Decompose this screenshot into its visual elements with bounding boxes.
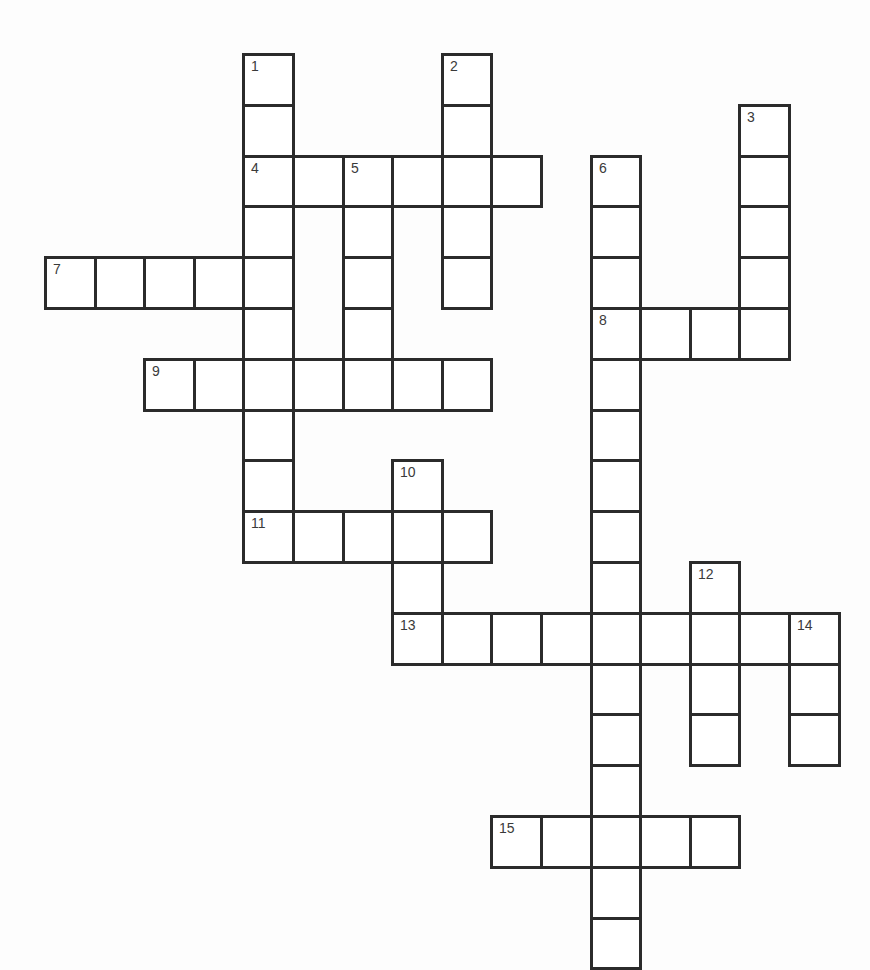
crossword-cell[interactable]: [738, 612, 791, 666]
clue-number: 4: [251, 161, 259, 175]
clue-number: 14: [797, 618, 813, 632]
crossword-cell[interactable]: [292, 155, 345, 208]
clue-number: 3: [747, 110, 755, 124]
crossword-cell[interactable]: [242, 205, 295, 259]
clue-number: 2: [450, 59, 458, 73]
crossword-cell[interactable]: [738, 307, 791, 361]
crossword-cell[interactable]: [639, 612, 692, 666]
crossword-cell[interactable]: 4: [242, 155, 295, 208]
crossword-cell[interactable]: [391, 510, 444, 564]
crossword-cell[interactable]: [738, 205, 791, 259]
clue-number: 13: [400, 618, 416, 632]
crossword-cell[interactable]: [590, 866, 642, 920]
crossword-cell[interactable]: 14: [788, 612, 841, 666]
crossword-cell[interactable]: [342, 510, 394, 564]
crossword-cell[interactable]: [242, 358, 295, 412]
crossword-cell[interactable]: [590, 205, 642, 259]
crossword-cell[interactable]: [292, 358, 345, 412]
crossword-cell[interactable]: [738, 256, 791, 310]
crossword-cell[interactable]: [441, 155, 493, 208]
crossword-cell[interactable]: [292, 510, 345, 564]
crossword-cell[interactable]: 5: [342, 155, 394, 208]
crossword-cell[interactable]: 7: [44, 256, 97, 310]
crossword-cell[interactable]: [242, 256, 295, 310]
crossword-cell[interactable]: [242, 307, 295, 361]
crossword-cell[interactable]: 13: [391, 612, 444, 666]
crossword-cell[interactable]: [590, 713, 642, 767]
crossword-cell[interactable]: [689, 663, 741, 716]
clue-number: 12: [698, 567, 714, 581]
crossword-cell[interactable]: [590, 409, 642, 462]
crossword-cell[interactable]: 3: [738, 104, 791, 158]
crossword-cell[interactable]: [94, 256, 146, 310]
crossword-cell[interactable]: [342, 256, 394, 310]
crossword-cell[interactable]: [441, 612, 493, 666]
clue-number: 8: [599, 313, 607, 327]
crossword-cell[interactable]: 8: [590, 307, 642, 361]
crossword-cell[interactable]: 1: [242, 53, 295, 107]
crossword-cell[interactable]: [590, 815, 642, 869]
clue-number: 15: [499, 821, 515, 835]
crossword-cell[interactable]: 11: [242, 510, 295, 564]
crossword-cell[interactable]: [689, 713, 741, 767]
crossword-cell[interactable]: [540, 815, 593, 869]
crossword-cell[interactable]: [441, 256, 493, 310]
crossword-cell[interactable]: [540, 612, 593, 666]
crossword-cell[interactable]: 9: [143, 358, 196, 412]
crossword-cell[interactable]: [590, 663, 642, 716]
crossword-cell[interactable]: [689, 612, 741, 666]
crossword-cell[interactable]: [242, 104, 295, 158]
crossword-cell[interactable]: 2: [441, 53, 493, 107]
clue-number: 1: [251, 59, 259, 73]
crossword-cell[interactable]: [490, 155, 543, 208]
crossword-cell[interactable]: [391, 561, 444, 615]
crossword-cell[interactable]: [391, 358, 444, 412]
crossword-cell[interactable]: [590, 459, 642, 513]
crossword-cell[interactable]: [639, 307, 692, 361]
crossword-cell[interactable]: [788, 663, 841, 716]
crossword-cell[interactable]: [689, 307, 741, 361]
crossword-cell[interactable]: 15: [490, 815, 543, 869]
crossword-cell[interactable]: [342, 205, 394, 259]
clue-number: 10: [400, 465, 416, 479]
clue-number: 7: [53, 262, 61, 276]
crossword-cell[interactable]: [242, 409, 295, 462]
crossword-cell[interactable]: [788, 713, 841, 767]
crossword-cell[interactable]: [590, 612, 642, 666]
crossword-cell[interactable]: [689, 815, 741, 869]
crossword-cell[interactable]: 12: [689, 561, 741, 615]
crossword-cell[interactable]: [193, 256, 245, 310]
crossword-cell[interactable]: [441, 104, 493, 158]
crossword-cell[interactable]: [590, 561, 642, 615]
crossword-cell[interactable]: [441, 205, 493, 259]
crossword-cell[interactable]: [639, 815, 692, 869]
clue-number: 6: [599, 161, 607, 175]
crossword-cell[interactable]: [590, 358, 642, 412]
crossword-cell[interactable]: [441, 510, 493, 564]
clue-number: 11: [251, 516, 266, 530]
clue-number: 5: [351, 161, 359, 175]
crossword-cell[interactable]: 10: [391, 459, 444, 513]
crossword-cell[interactable]: [391, 155, 444, 208]
crossword-cell[interactable]: 6: [590, 155, 642, 208]
crossword-cell[interactable]: [490, 612, 543, 666]
crossword-cell[interactable]: [342, 307, 394, 361]
crossword-cell[interactable]: [738, 155, 791, 208]
crossword-cell[interactable]: [590, 256, 642, 310]
crossword-cell[interactable]: [590, 764, 642, 818]
crossword-cell[interactable]: [193, 358, 245, 412]
clue-number: 9: [152, 364, 160, 378]
crossword-cell[interactable]: [143, 256, 196, 310]
crossword-cell[interactable]: [590, 917, 642, 970]
crossword-cell[interactable]: [342, 358, 394, 412]
crossword-cell[interactable]: [441, 358, 493, 412]
crossword-cell[interactable]: [242, 459, 295, 513]
crossword-cell[interactable]: [590, 510, 642, 564]
